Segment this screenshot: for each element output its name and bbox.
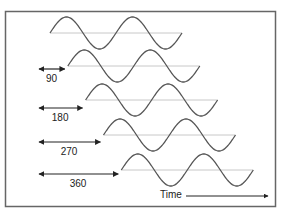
time-axis-label: Time: [160, 190, 182, 200]
phase-shift-diagram: [0, 0, 281, 215]
phase-shift-label: 180: [52, 113, 69, 123]
phase-shift-label: 90: [46, 74, 57, 84]
diagram-border: [6, 12, 276, 207]
phase-shift-label: 270: [61, 147, 78, 157]
sine-waves-group: [50, 17, 253, 186]
phase-shift-label: 360: [70, 179, 87, 189]
